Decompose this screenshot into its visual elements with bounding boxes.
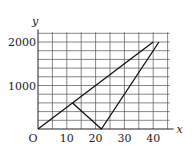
x-tick-label: 40 xyxy=(146,132,160,145)
origin-label: O xyxy=(28,132,37,145)
x-axis-label: x xyxy=(177,123,184,136)
x-tick-label: 10 xyxy=(60,132,74,145)
chart: 1020304010002000Oxy xyxy=(0,0,195,155)
x-tick-label: 30 xyxy=(117,132,131,145)
y-tick-label: 2000 xyxy=(8,36,36,49)
y-tick-label: 1000 xyxy=(8,80,36,93)
y-axis-label: y xyxy=(31,15,39,28)
x-tick-label: 20 xyxy=(89,132,103,145)
